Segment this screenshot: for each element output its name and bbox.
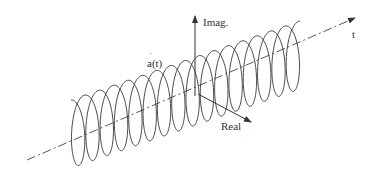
derivative-dot: ˙ — [149, 52, 152, 61]
real-axis — [198, 94, 251, 122]
signal-label: ˙ a(t) — [147, 58, 162, 69]
real-axis-label: Real — [221, 121, 241, 132]
imag-axis-label: Imag. — [203, 17, 228, 28]
time-axis — [27, 18, 355, 160]
helix-curve — [71, 21, 300, 166]
helix-diagram — [0, 0, 374, 181]
time-axis-label: t — [352, 29, 355, 40]
